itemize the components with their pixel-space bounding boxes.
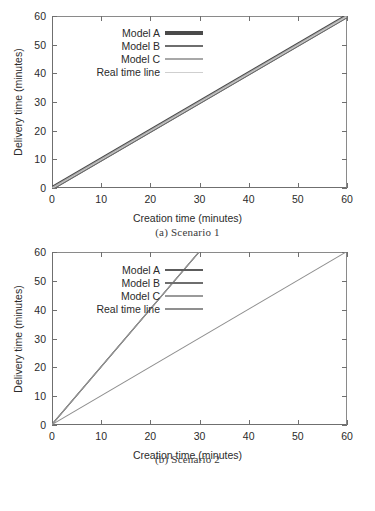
x-axis-tick-label: 30 [194,431,206,442]
legend-color-swatch [165,282,203,283]
chart-panel-scenario-2: 01020304050600102030405060Creation time … [0,246,375,486]
legend-color-swatch [165,31,203,35]
legend-item-label: Model A [122,265,165,276]
plot-area-scenario-1: 01020304050600102030405060Creation time … [0,0,375,246]
x-axis-tick-label: 0 [49,194,55,205]
legend-color-swatch [165,72,203,73]
x-axis-tick-label: 20 [144,431,156,442]
y-axis-tick-label: 50 [22,39,46,50]
x-axis-tick [347,183,348,188]
y-axis-tick-label: 20 [22,362,46,373]
y-axis-tick-label: 40 [22,68,46,79]
y-axis-tick-label: 30 [22,97,46,108]
legend-item-label: Real time line [96,304,165,315]
y-axis-tick-right [342,425,347,426]
chart-panel-scenario-1: 01020304050600102030405060Creation time … [0,0,375,246]
legend-color-swatch [165,295,203,296]
legend-item-label: Model B [121,278,165,289]
legend-item-label: Real time line [96,67,165,78]
y-axis-tick-label: 50 [22,276,46,287]
x-axis-tick-label: 10 [95,431,107,442]
y-axis-tick [52,425,57,426]
x-axis-tick-label: 60 [341,194,353,205]
x-axis-tick-label: 50 [292,194,304,205]
legend-item[interactable]: Model A [63,264,203,276]
legend-item[interactable]: Real time line [63,303,203,315]
legend-item-label: Model B [121,41,165,52]
x-axis-tick-top [347,252,348,257]
y-axis-tick [52,188,57,189]
legend-item[interactable]: Model A [63,27,203,39]
x-axis-tick-label: 50 [292,431,304,442]
x-axis-tick-label: 60 [341,431,353,442]
legend-item[interactable]: Model B [63,40,203,52]
legend-item[interactable]: Model C [63,290,203,302]
legend-color-swatch [165,269,203,270]
x-axis-title: Creation time (minutes) [133,212,242,224]
y-axis-tick-label: 10 [22,154,46,165]
legend-color-swatch [165,45,203,48]
x-axis-tick-label: 30 [194,194,206,205]
plot-area-scenario-2: 01020304050600102030405060Creation time … [0,246,375,486]
y-axis-tick-label: 60 [22,11,46,22]
legend-item-label: Model A [122,28,165,39]
legend-item-label: Model C [121,54,165,65]
chart-legend: Model AModel BModel CReal time line [63,27,203,79]
legend-item[interactable]: Model C [63,53,203,65]
y-axis-tick-label: 30 [22,333,46,344]
y-axis-tick-label: 10 [22,391,46,402]
page-figure-caption [0,472,375,486]
legend-color-swatch [165,308,203,309]
y-axis-tick-label: 20 [22,125,46,136]
x-axis-tick-top [347,16,348,21]
legend-item[interactable]: Model B [63,277,203,289]
y-axis-tick-label: 0 [22,183,46,194]
x-axis-tick-label: 20 [144,194,156,205]
y-axis-title: Delivery time (minutes) [12,48,24,155]
figure-container: 01020304050600102030405060Creation time … [0,0,375,486]
x-axis-tick-label: 10 [95,194,107,205]
y-axis-tick-right [342,188,347,189]
subcaption-scenario-1: (a) Scenario 1 [0,226,375,238]
x-axis-tick-label: 40 [243,194,255,205]
x-axis-tick-label: 40 [243,431,255,442]
y-axis-tick-label: 60 [22,247,46,258]
y-axis-tick-label: 40 [22,304,46,315]
y-axis-tick-label: 0 [22,420,46,431]
legend-color-swatch [165,58,203,59]
subcaption-scenario-2: (b) Scenario 2 [0,453,375,465]
legend-item-label: Model C [121,291,165,302]
legend-item[interactable]: Real time line [63,66,203,78]
y-axis-title: Delivery time (minutes) [12,285,24,392]
chart-legend: Model AModel BModel CReal time line [63,264,203,316]
x-axis-tick [347,420,348,425]
x-axis-tick-label: 0 [49,431,55,442]
